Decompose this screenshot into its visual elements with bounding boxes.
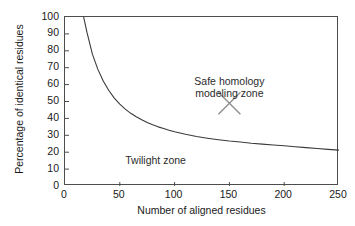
y-tick-label: 60 (29, 78, 59, 89)
y-axis-tick-marks (65, 34, 69, 169)
chart-figure: Percentage of identical residues 0102030… (0, 0, 355, 226)
x-axis-tick-marks (120, 182, 284, 186)
safe-homology-zone-line1: Safe homology (194, 75, 264, 87)
x-tick-label: 0 (47, 189, 81, 200)
y-tick-label: 20 (29, 146, 59, 157)
plot-area: Safe homology modeling zone Twilight zon… (64, 16, 338, 185)
x-tick-label: 100 (157, 189, 191, 200)
y-tick-label: 100 (29, 11, 59, 22)
safe-homology-zone-line2: modeling zone (195, 87, 263, 99)
x-tick-label: 200 (266, 189, 300, 200)
y-tick-label: 80 (29, 44, 59, 55)
y-tick-label: 10 (29, 163, 59, 174)
twilight-zone-annotation: Twilight zone (125, 154, 186, 167)
y-tick-label: 50 (29, 95, 59, 106)
y-tick-label: 70 (29, 61, 59, 72)
x-axis-title: Number of aligned residues (64, 204, 339, 216)
y-axis-title: Percentage of identical residues (12, 6, 26, 192)
x-tick-label: 150 (211, 189, 245, 200)
y-tick-label: 90 (29, 27, 59, 38)
x-tick-label: 50 (102, 189, 136, 200)
plot-svg (65, 17, 339, 186)
y-tick-label: 40 (29, 112, 59, 123)
y-tick-label: 30 (29, 129, 59, 140)
safe-homology-zone-annotation: Safe homology modeling zone (169, 75, 289, 100)
x-tick-label: 250 (321, 189, 355, 200)
